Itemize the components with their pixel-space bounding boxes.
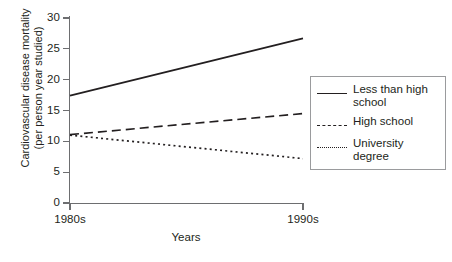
legend-swatch-dashed-icon bbox=[317, 119, 347, 131]
y-tick-mark bbox=[63, 172, 69, 173]
y-tick-mark bbox=[63, 141, 69, 142]
y-axis-line bbox=[69, 16, 70, 205]
y-tick-label: 5 bbox=[54, 166, 61, 178]
y-axis-title: Cardiovascular disease mortality (per pe… bbox=[19, 0, 45, 183]
legend-rule bbox=[317, 147, 347, 148]
y-tick-mark bbox=[63, 110, 69, 111]
legend-label: High school bbox=[353, 115, 413, 128]
x-axis-title: Years bbox=[0, 231, 372, 243]
y-tick-mark bbox=[63, 202, 69, 203]
x-tick-mark bbox=[69, 204, 70, 210]
legend-swatch-solid-icon bbox=[317, 87, 347, 99]
x-tick-label: 1980s bbox=[54, 213, 85, 225]
legend-rule bbox=[317, 93, 347, 94]
y-tick-label: 30 bbox=[47, 12, 60, 24]
y-tick-label: 20 bbox=[47, 74, 60, 86]
x-tick-mark bbox=[302, 204, 303, 210]
legend: Less than high schoolHigh schoolUniversi… bbox=[310, 76, 446, 170]
legend-swatch-dotted-icon bbox=[317, 141, 347, 153]
y-tick-label: 10 bbox=[47, 135, 60, 147]
y-axis-title-line-1: Cardiovascular disease mortality bbox=[19, 0, 32, 183]
series-line-dotted bbox=[70, 135, 303, 158]
y-tick-mark bbox=[63, 17, 69, 18]
x-axis-line bbox=[69, 203, 304, 204]
y-tick-label: 25 bbox=[47, 43, 60, 55]
legend-label: University degree bbox=[353, 137, 440, 163]
y-tick-label: 0 bbox=[54, 197, 61, 209]
legend-entry[interactable]: University degree bbox=[317, 137, 440, 163]
chart-figure: 051015202530 1980s1990s Cardiovascular d… bbox=[0, 0, 452, 262]
series-line-dashed bbox=[70, 114, 303, 135]
y-tick-mark bbox=[63, 79, 69, 80]
y-tick-label: 15 bbox=[47, 105, 60, 117]
legend-rule bbox=[317, 125, 347, 126]
series-line-solid bbox=[70, 38, 303, 95]
legend-entry[interactable]: Less than high school bbox=[317, 83, 440, 109]
y-axis-title-line-2: (per person year studied) bbox=[32, 0, 45, 183]
y-tick-mark bbox=[63, 48, 69, 49]
x-tick-label: 1990s bbox=[287, 213, 318, 225]
legend-entry[interactable]: High school bbox=[317, 115, 440, 131]
legend-label: Less than high school bbox=[353, 83, 440, 109]
